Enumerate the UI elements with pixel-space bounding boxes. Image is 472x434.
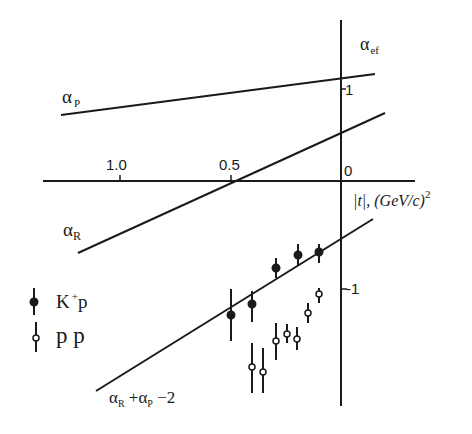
alpha-p-label: αP [62, 86, 80, 109]
alpha-combo-line [96, 219, 373, 391]
pp-point [273, 323, 279, 360]
alpha-r-line [78, 113, 385, 253]
pp-point [249, 343, 255, 393]
regge-trajectory-chart: 1.0 0.5 0 1 -1 αef |t|, (GeV/c)2 αP αR α… [0, 0, 472, 434]
y-tick-label-m1: -1 [346, 280, 359, 297]
legend-marker-pp [33, 322, 39, 352]
kp-point [228, 289, 235, 341]
kp-point [295, 244, 302, 266]
x-tick-label-1.0: 1.0 [106, 156, 127, 173]
legend: K+p p p [31, 288, 88, 352]
kp-point [273, 258, 280, 278]
alpha-combo-label: αR +αP −2 [109, 388, 175, 409]
pp-point [284, 324, 290, 343]
pp-point [294, 327, 300, 350]
kp-point [316, 244, 323, 263]
y-tick-label-1: 1 [345, 81, 353, 98]
legend-label-pp: p p [56, 323, 85, 348]
alpha-p-line [61, 74, 375, 115]
pp-point [316, 288, 322, 303]
legend-marker-kp [31, 288, 38, 315]
series-pp [249, 288, 322, 393]
x-tick-label-0.5: 0.5 [219, 156, 240, 173]
alpha-r-label: αR [63, 219, 81, 243]
legend-label-kp: K+p [56, 290, 87, 312]
pp-point [305, 303, 311, 323]
y-axis-label: αef [360, 34, 379, 56]
x-axis-label: |t|, (GeV/c)2 [353, 188, 430, 210]
x-tick-label-0: 0 [344, 162, 352, 179]
pp-point [260, 348, 266, 393]
